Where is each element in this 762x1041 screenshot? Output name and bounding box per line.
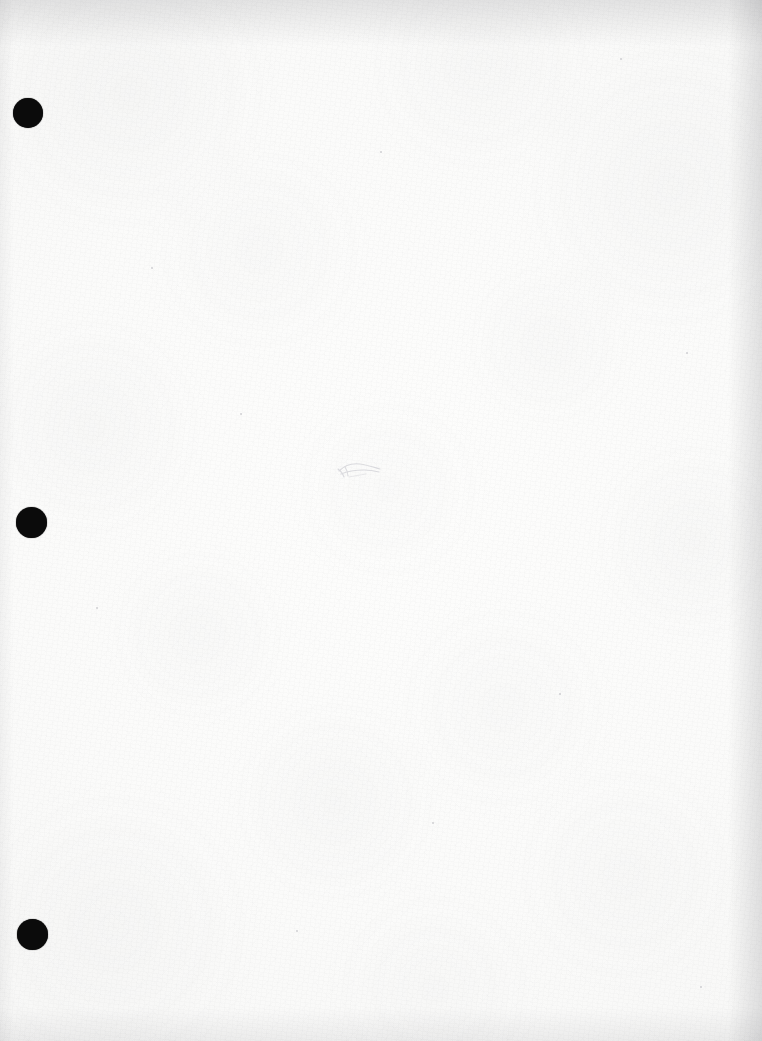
paper-speck — [380, 151, 382, 153]
paper-speck — [700, 986, 702, 988]
paper-speck — [432, 822, 434, 824]
page-edge-shadow-top — [0, 0, 762, 46]
page-edge-shadow-right — [728, 0, 762, 1041]
punch-hole-bottom-hole — [17, 919, 48, 950]
paper-speck — [559, 693, 561, 695]
paper-speck — [151, 267, 153, 269]
paper-speck — [296, 930, 298, 932]
scanned-page — [0, 0, 762, 1041]
punch-hole-middle-hole — [16, 507, 47, 538]
page-edge-shadow-left — [0, 0, 14, 1041]
paper-speck — [686, 352, 688, 354]
paper-speck — [620, 58, 622, 60]
paper-speck — [96, 607, 98, 609]
paper-mottle-texture — [0, 0, 762, 1041]
page-edge-shadow-bottom — [0, 1007, 762, 1041]
paper-speck — [240, 413, 242, 415]
punch-hole-top-hole — [13, 98, 43, 128]
